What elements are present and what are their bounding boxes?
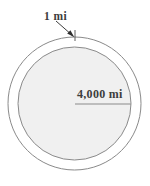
figure-canvas: 1 mi 4,000 mi [0,0,150,186]
gap-label: 1 mi [44,10,67,22]
radius-label: 4,000 mi [77,87,123,101]
concentric-circles-figure: 1 mi 4,000 mi [0,0,150,186]
